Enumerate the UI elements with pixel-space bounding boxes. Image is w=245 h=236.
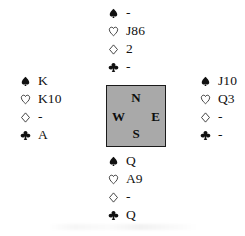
hand-east-clubs: - xyxy=(218,126,223,144)
hand-south-hearts-row: A9 xyxy=(107,170,143,188)
hand-north-clubs-row: - xyxy=(107,58,145,76)
compass-box: N W E S xyxy=(106,85,166,147)
compass-label-north: N xyxy=(107,91,165,104)
hand-north-spades-row: - xyxy=(107,4,145,22)
hand-west-spades: K xyxy=(38,72,48,90)
heart-pip-icon xyxy=(107,173,120,186)
hand-south-spades-row: Q xyxy=(107,152,143,170)
hand-west-diamonds-row: - xyxy=(19,108,62,126)
hand-south-hearts: A9 xyxy=(126,170,143,188)
hand-east-spades-row: J10 xyxy=(199,72,237,90)
hand-east-clubs-row: - xyxy=(199,126,237,144)
spade-pip-icon xyxy=(19,75,32,88)
spade-pip-icon xyxy=(107,7,120,20)
hand-west-clubs: A xyxy=(38,126,48,144)
hand-east-hearts-row: Q3 xyxy=(199,90,237,108)
compass-label-east: E xyxy=(151,110,160,123)
hand-west-diamonds: - xyxy=(38,108,43,126)
heart-pip-icon xyxy=(19,93,32,106)
hand-east-diamonds-row: - xyxy=(199,108,237,126)
heart-pip-icon xyxy=(199,93,212,106)
compass-label-south: S xyxy=(107,127,165,140)
hand-north-clubs: - xyxy=(126,58,131,76)
diamond-pip-icon xyxy=(19,111,32,124)
hand-east: J10 Q3 - - xyxy=(199,72,237,144)
hand-north: - J86 2 - xyxy=(107,4,145,76)
hand-north-diamonds-row: 2 xyxy=(107,40,145,58)
hand-north-hearts-row: J86 xyxy=(107,22,145,40)
hand-north-diamonds: 2 xyxy=(126,40,133,58)
hand-west-spades-row: K xyxy=(19,72,62,90)
heart-pip-icon xyxy=(107,25,120,38)
club-pip-icon xyxy=(107,209,120,222)
hand-south-diamonds: - xyxy=(126,188,131,206)
hand-west-hearts: K10 xyxy=(38,90,62,108)
hand-east-diamonds: - xyxy=(218,108,223,126)
hand-north-hearts: J86 xyxy=(126,22,145,40)
diamond-pip-icon xyxy=(107,43,120,56)
compass-label-west: W xyxy=(112,110,125,123)
spade-pip-icon xyxy=(107,155,120,168)
spade-pip-icon xyxy=(199,75,212,88)
hand-south-clubs: Q xyxy=(126,206,136,224)
diamond-pip-icon xyxy=(107,191,120,204)
hand-west-hearts-row: K10 xyxy=(19,90,62,108)
hand-south-clubs-row: Q xyxy=(107,206,143,224)
scan-artifact xyxy=(48,224,198,230)
hand-south-spades: Q xyxy=(126,152,136,170)
diamond-pip-icon xyxy=(199,111,212,124)
hand-west-clubs-row: A xyxy=(19,126,62,144)
club-pip-icon xyxy=(107,61,120,74)
hand-south: Q A9 - Q xyxy=(107,152,143,224)
hand-west: K K10 - A xyxy=(19,72,62,144)
hand-north-spades: - xyxy=(126,4,131,22)
club-pip-icon xyxy=(19,129,32,142)
hand-south-diamonds-row: - xyxy=(107,188,143,206)
bridge-deal-diagram: - J86 2 - xyxy=(0,0,245,236)
hand-east-spades: J10 xyxy=(218,72,237,90)
hand-east-hearts: Q3 xyxy=(218,90,235,108)
club-pip-icon xyxy=(199,129,212,142)
